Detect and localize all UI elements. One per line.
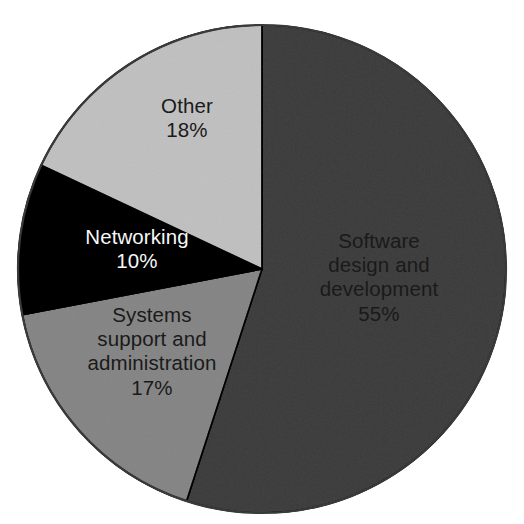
pie-chart-svg — [0, 0, 524, 524]
pie-slices — [18, 25, 506, 513]
pie-chart: Softwaredesign anddevelopment55%Systemss… — [0, 0, 524, 524]
